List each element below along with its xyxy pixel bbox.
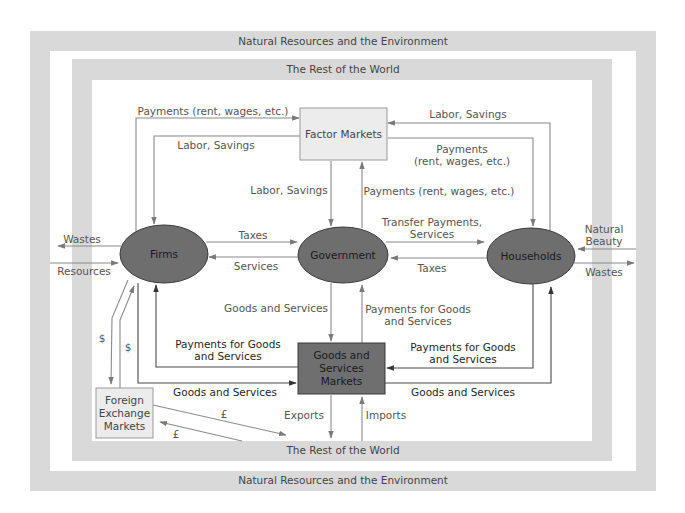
factor-to-households-payments-label-1: Payments xyxy=(436,143,487,155)
markets-to-households-goods-label: Goods and Services xyxy=(411,386,515,398)
households-label: Households xyxy=(487,228,575,284)
gov-to-households-transfer-label-2: Services xyxy=(410,228,454,240)
households-wastes-label: Wastes xyxy=(585,266,623,278)
exports-label: Exports xyxy=(284,409,324,421)
fx-to-firms-dollar-label: $ xyxy=(125,341,132,353)
government-label: Government xyxy=(298,227,388,283)
firms-wastes-label: Wastes xyxy=(63,233,101,245)
gov-to-factor-payments-label: Payments (rent, wages, etc.) xyxy=(364,185,515,197)
markets-to-firms-payments-label-2: and Services xyxy=(194,350,261,362)
households-to-markets-payments-label-1: Payments for Goods xyxy=(410,341,516,353)
fx-line-1: Foreign xyxy=(105,394,144,407)
firms-to-factor-payments-label: Payments (rent, wages, etc.) xyxy=(138,105,289,117)
resources-label: Resources xyxy=(57,265,111,277)
natural-resources-label-top: Natural Resources and the Environment xyxy=(238,35,448,47)
imports-label: Imports xyxy=(366,409,406,421)
natural-beauty-label-1: Natural xyxy=(585,223,624,235)
gov-payments-label-1: Payments for Goods xyxy=(365,303,471,315)
factor-to-firms-labor-label: Labor, Savings xyxy=(177,139,254,151)
fx-line-2: Exchange xyxy=(99,407,150,420)
markets-to-firms-payments-label-1: Payments for Goods xyxy=(175,338,281,350)
firms-to-markets-goods-label: Goods and Services xyxy=(173,386,277,398)
gov-payments-label-2: and Services xyxy=(384,315,451,327)
natural-beauty-label-2: Beauty xyxy=(585,235,622,247)
gsm-line-1: Goods and xyxy=(313,349,369,362)
goods-services-markets-label: Goods and Services Markets xyxy=(298,343,385,394)
households-to-markets-payments-label-2: and Services xyxy=(429,353,496,365)
fx-line-3: Markets xyxy=(104,420,146,433)
foreign-exchange-markets-label: Foreign Exchange Markets xyxy=(96,388,153,438)
rest-of-world-label-top: The Rest of the World xyxy=(286,63,399,75)
firms-to-fx-dollar-label: $ xyxy=(99,332,106,344)
households-to-gov-taxes-label: Taxes xyxy=(418,262,447,274)
firms-to-gov-taxes-label: Taxes xyxy=(239,229,268,241)
gov-to-households-transfer-label-1: Transfer Payments, xyxy=(382,216,482,228)
factor-markets-label: Factor Markets xyxy=(300,108,387,160)
gsm-line-2: Services xyxy=(319,362,363,375)
firms-label: Firms xyxy=(120,225,208,283)
gsm-line-3: Markets xyxy=(321,375,363,388)
natural-resources-label-bottom: Natural Resources and the Environment xyxy=(238,474,448,486)
gov-to-markets-goods-label: Goods and Services xyxy=(224,302,328,314)
rest-of-world-label-bottom: The Rest of the World xyxy=(286,444,399,456)
gov-to-firms-services-label: Services xyxy=(234,260,278,272)
households-to-factor-labor-label: Labor, Savings xyxy=(429,108,506,120)
fx-to-world-pound-label: £ xyxy=(221,408,228,420)
world-to-fx-pound-label: £ xyxy=(173,428,180,440)
factor-to-households-payments-label-2: (rent, wages, etc.) xyxy=(414,155,510,167)
factor-to-gov-labor-label: Labor, Savings xyxy=(250,184,327,196)
